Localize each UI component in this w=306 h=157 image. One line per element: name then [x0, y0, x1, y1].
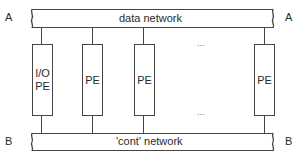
pe3-label: PE — [137, 74, 152, 87]
top-bus-left-label: A — [5, 11, 12, 23]
pe1-bottom-connector — [41, 116, 42, 133]
pe4-bottom-connector — [264, 116, 265, 133]
data-network-label: data network — [119, 12, 182, 24]
top-bus-right-break-icon — [270, 9, 276, 28]
data-network-bus: data network — [32, 9, 273, 28]
io-pe-box: I/O PE — [32, 44, 53, 116]
bottom-bus-right-break-icon — [270, 133, 276, 151]
top-bus-right-label: A — [285, 11, 292, 23]
io-pe-line2: PE — [35, 80, 50, 93]
pe4-label: PE — [257, 74, 272, 87]
pe1-top-connector — [41, 28, 42, 44]
bottom-bus-left-break-icon — [29, 133, 35, 151]
ellipsis-top: ... — [197, 38, 205, 48]
cont-network-label: 'cont' network — [116, 135, 183, 147]
pe2-bottom-connector — [92, 116, 93, 133]
bottom-bus-left-label: B — [5, 135, 12, 147]
ellipsis-bottom: ... — [197, 107, 205, 117]
pe-box-last: PE — [254, 44, 275, 116]
pe-box-3: PE — [134, 44, 155, 116]
pe3-bottom-connector — [143, 116, 144, 133]
bottom-bus-right-label: B — [285, 135, 292, 147]
top-bus-left-break-icon — [29, 9, 35, 28]
pe-box-2: PE — [82, 44, 103, 116]
cont-network-bus: 'cont' network — [32, 133, 273, 151]
pe2-label: PE — [85, 74, 100, 87]
pe3-top-connector — [143, 28, 144, 44]
pe2-top-connector — [92, 28, 93, 44]
pe4-top-connector — [264, 28, 265, 44]
io-pe-line1: I/O — [35, 67, 50, 80]
